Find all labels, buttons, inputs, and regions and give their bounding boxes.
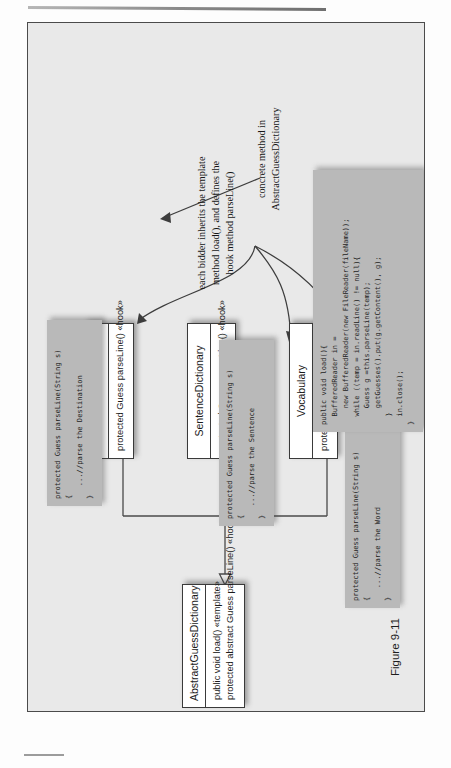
uml-class-name: Vocabulary — [290, 324, 313, 458]
uml-member: protected Guess parseLine() «hook» — [114, 331, 127, 451]
uml-class-members: protected Guess parseLine() «hook» — [109, 324, 133, 458]
uml-class-abstract-guess-dictionary[interactable]: AbstractGuessDictionary public void load… — [182, 584, 245, 708]
scanned-page: AbstractGuessDictionary public void load… — [0, 0, 451, 768]
uml-member: protected abstract Guess parseLine() «ho… — [224, 592, 237, 700]
figure-frame: AbstractGuessDictionary public void load… — [27, 22, 425, 712]
code-note-sentence-dictionary: protected Guess parseLine(String s) { ..… — [219, 340, 274, 526]
page-rule-top — [28, 6, 326, 11]
figure-caption: Figure 9-11 — [389, 618, 401, 676]
uml-class-name: AbstractGuessDictionary — [183, 585, 206, 707]
uml-class-members: public void load() «template» protected … — [206, 585, 244, 707]
annotation-concrete-method: concrete method in AbstractGuessDictiona… — [255, 84, 283, 234]
page-rule-bottom — [24, 754, 64, 756]
annotation-hook-method: each bidder inherits the template method… — [195, 134, 236, 312]
code-note-load-method: public void load(){ BufferedReader in = … — [313, 170, 423, 432]
code-note-vocabulary: protected Guess parseLine(String s) { ..… — [345, 422, 400, 608]
uml-class-diagram: AbstractGuessDictionary public void load… — [27, 22, 425, 712]
code-note-address-book: protected Guess parseLine(String s) { ..… — [47, 320, 102, 506]
uml-class-name: SentenceDictionary — [188, 324, 211, 458]
uml-member: public void load() «template» — [211, 592, 224, 700]
diagram-rotation-wrapper: AbstractGuessDictionary public void load… — [27, 22, 425, 712]
